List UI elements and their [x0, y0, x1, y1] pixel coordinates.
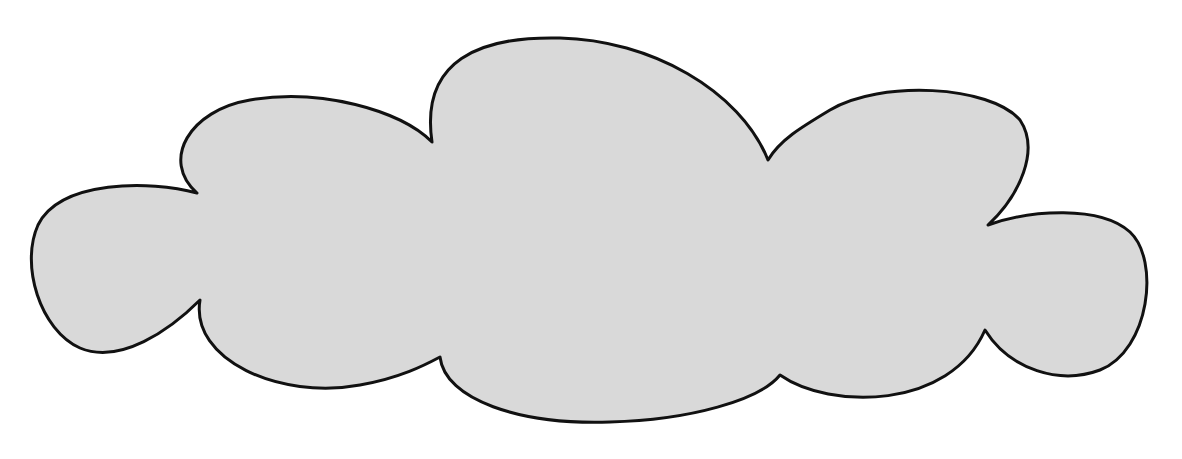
- cloud-illustration: [0, 0, 1182, 459]
- cloud-icon: [0, 0, 1182, 459]
